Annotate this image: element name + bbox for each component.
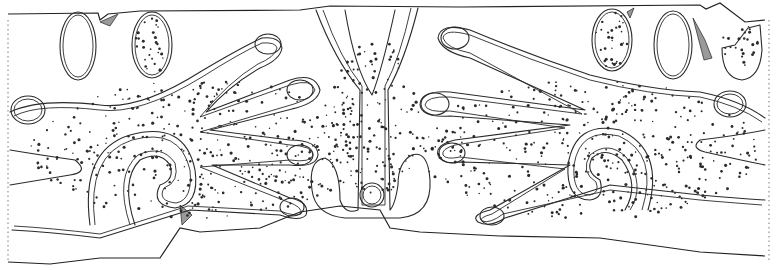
frieze-drawing [0,0,777,270]
oval-group-top [60,8,762,225]
center-fork-motif [311,8,430,218]
stipple-dots [31,12,759,219]
bottom-edge [8,206,765,264]
right-hand-motif [420,27,765,225]
top-edge [8,3,765,22]
